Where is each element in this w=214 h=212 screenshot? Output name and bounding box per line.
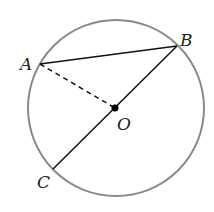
label-c: C [37, 172, 50, 192]
chord-ab [40, 46, 177, 64]
circle-diagram: A B O C [0, 0, 214, 212]
radius-ao-dashed [40, 64, 115, 108]
label-b: B [179, 30, 193, 50]
label-a: A [18, 54, 32, 74]
label-o: O [117, 114, 131, 134]
center-point-o [112, 105, 119, 112]
